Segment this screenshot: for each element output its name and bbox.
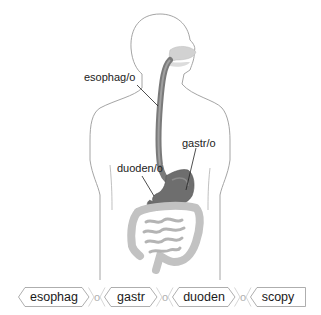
body-outline-graphic <box>0 0 321 280</box>
label-esophagus: esophag/o <box>84 71 135 83</box>
label-duodenum: duoden/o <box>117 162 163 174</box>
word-part-gastr: gastr <box>104 287 158 307</box>
word-part-duoden: duoden <box>172 287 236 307</box>
word-part-esophag: esophag <box>18 287 90 307</box>
digestive-system-illustration: esophag/o gastr/o duoden/o <box>0 0 321 280</box>
word-part-scopy: scopy <box>250 287 306 307</box>
word-parts-strip: esophag o gastr o duoden o scopy <box>18 287 306 307</box>
label-stomach: gastr/o <box>182 137 216 149</box>
